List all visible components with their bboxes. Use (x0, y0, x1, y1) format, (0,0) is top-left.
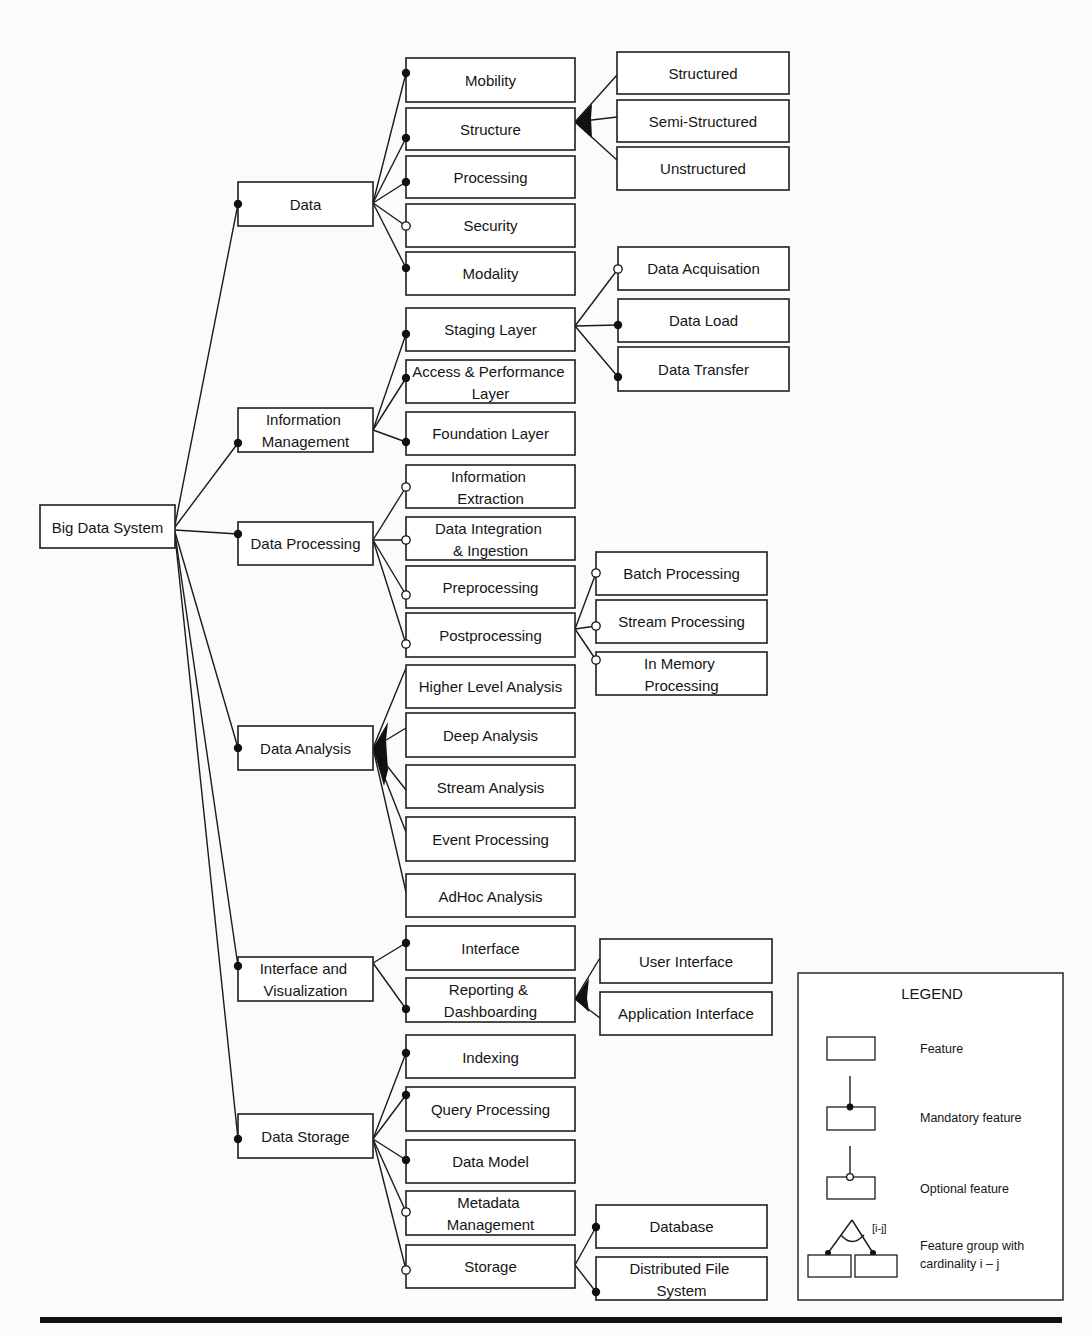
mandatory-feature-icon (827, 1107, 875, 1130)
node-label: Data Transfer (658, 361, 749, 378)
feature-node-access-performance-layer: Access & Performance Layer (406, 360, 575, 403)
node-label: Processing (453, 169, 527, 186)
mandatory-dot-icon (234, 530, 242, 538)
node-label: Preprocessing (443, 579, 539, 596)
mandatory-dot-icon (402, 178, 410, 186)
node-label: Structured (668, 65, 737, 82)
feature-node-stream-processing: Stream Processing (596, 600, 767, 643)
feature-node-stream-analysis: Stream Analysis (406, 765, 575, 808)
mandatory-dot-icon (592, 1288, 600, 1296)
mandatory-dot-icon (402, 1156, 410, 1164)
node-label: Application Interface (618, 1005, 754, 1022)
cardinality-label: [i-j] (872, 1222, 887, 1234)
feature-node-staging-layer: Staging Layer (406, 308, 575, 351)
mandatory-dot-icon (234, 1135, 242, 1143)
data-storage-edges (373, 1053, 406, 1270)
node-label: Data Processing (250, 535, 360, 552)
node-label: User Interface (639, 953, 733, 970)
structure-group-edges (575, 75, 617, 160)
feature-node-modality: Modality (406, 252, 575, 295)
reporting-group-edges (575, 958, 600, 1018)
mandatory-dot-icon (402, 374, 410, 382)
feature-model-diagram: Big Data System Data Information Managem… (0, 0, 1092, 1335)
node-label: Foundation Layer (432, 425, 549, 442)
feature-node-data: Data (238, 182, 373, 226)
mandatory-dot-icon (847, 1104, 854, 1111)
mandatory-dot-icon (402, 1005, 410, 1013)
node-label: Structure (460, 121, 521, 138)
mandatory-dot-icon (402, 69, 410, 77)
feature-node-semi-structured: Semi-Structured (617, 100, 789, 142)
node-label: Higher Level Analysis (419, 678, 562, 695)
node-label: Database (649, 1218, 713, 1235)
node-label: Data (290, 196, 322, 213)
optional-dot-icon (402, 483, 410, 491)
mandatory-dot-icon (234, 200, 242, 208)
feature-node-unstructured: Unstructured (617, 147, 789, 190)
feature-node-processing: Processing (406, 156, 575, 198)
mandatory-dot-icon (614, 373, 622, 381)
node-label: Deep Analysis (443, 727, 538, 744)
optional-dot-icon (614, 265, 622, 273)
node-label: Data Model (452, 1153, 529, 1170)
root-edges (175, 204, 238, 1139)
feature-node-adhoc-analysis: AdHoc Analysis (406, 874, 575, 917)
feature-node-mobility: Mobility (406, 58, 575, 102)
feature-node-batch-processing: Batch Processing (596, 552, 767, 595)
mandatory-dot-icon (614, 321, 622, 329)
bottom-rule-divider (40, 1317, 1062, 1323)
node-label: Postprocessing (439, 627, 542, 644)
feature-node-data-model: Data Model (406, 1140, 575, 1183)
feature-node-data-transfer: Data Transfer (618, 347, 789, 391)
feature-node-data-processing: Data Processing (238, 522, 373, 565)
node-label: Security (463, 217, 518, 234)
node-label: Data Storage (261, 1128, 349, 1145)
node-label: AdHoc Analysis (438, 888, 542, 905)
feature-node-metadata-management: Metadata Management (406, 1191, 575, 1235)
node-label: Event Processing (432, 831, 549, 848)
data-processing-edges (373, 487, 406, 644)
node-label: Mobility (465, 72, 516, 89)
node-label: Semi-Structured (649, 113, 757, 130)
optional-dot-icon (402, 1266, 410, 1274)
feature-node-query-processing: Query Processing (406, 1087, 575, 1131)
optional-dot-icon (592, 622, 600, 630)
node-label: Stream Processing (618, 613, 745, 630)
interface-vis-edges (373, 943, 406, 1009)
feature-node-data-integration-ingestion: Data Integration & Ingestion (406, 517, 575, 560)
legend-label: Feature (920, 1042, 963, 1056)
mandatory-dot-icon (402, 939, 410, 947)
feature-node-reporting-dashboarding: Reporting & Dashboarding (406, 978, 575, 1022)
feature-node-data-acquisation: Data Acquisation (618, 247, 789, 290)
mandatory-dot-icon (234, 439, 242, 447)
feature-node-interface-visualization: Interface and Visualization (238, 957, 373, 1001)
node-label: Stream Analysis (437, 779, 545, 796)
node-label: Data Analysis (260, 740, 351, 757)
mandatory-dot-icon (402, 438, 410, 446)
postprocessing-edges (575, 573, 596, 660)
feature-node-data-storage: Data Storage (238, 1114, 373, 1158)
feature-node-big-data-system: Big Data System (40, 505, 175, 548)
data-analysis-group-edges (373, 668, 406, 892)
feature-node-structure: Structure (406, 108, 575, 150)
mandatory-dot-icon (234, 962, 242, 970)
node-label: Data Load (669, 312, 738, 329)
feature-node-event-processing: Event Processing (406, 817, 575, 861)
optional-dot-icon (402, 536, 410, 544)
node-label: Indexing (462, 1049, 519, 1066)
node-label: Storage (464, 1258, 517, 1275)
staging-edges (575, 269, 618, 377)
feature-node-security: Security (406, 204, 575, 247)
feature-node-data-analysis: Data Analysis (238, 726, 373, 770)
node-label: Batch Processing (623, 565, 740, 582)
feature-node-user-interface: User Interface (600, 939, 772, 983)
node-label: Query Processing (431, 1101, 550, 1118)
node-label: Data Acquisation (647, 260, 760, 277)
legend-label: Mandatory feature (920, 1111, 1021, 1125)
feature-node-data-load: Data Load (618, 299, 789, 342)
legend-title: LEGEND (901, 985, 963, 1002)
feature-node-deep-analysis: Deep Analysis (406, 713, 575, 757)
mandatory-dot-icon (592, 1223, 600, 1231)
mandatory-dot-icon (402, 264, 410, 272)
legend-label: Optional feature (920, 1182, 1009, 1196)
